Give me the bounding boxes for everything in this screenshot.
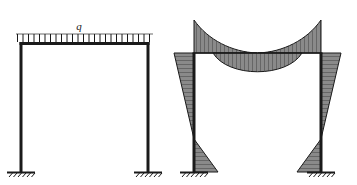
moment-beam-hogging-right	[258, 20, 321, 53]
support-fixed-right	[134, 173, 162, 178]
moment-beam-sagging-mid	[213, 53, 302, 72]
moment-support-fixed-left	[180, 173, 208, 178]
load-label-q: q	[76, 20, 82, 32]
moment-column-left-upper	[174, 53, 194, 139]
moment-support-fixed-right	[307, 173, 335, 178]
support-fixed-left	[7, 173, 35, 178]
figure-root: q	[0, 0, 357, 185]
moment-beam-hogging-left	[194, 20, 257, 53]
distributed-load-arrows	[18, 34, 150, 42]
moment-column-left-lower	[194, 139, 218, 172]
panel-moment-diagram	[174, 20, 341, 177]
engineering-figure: q	[0, 0, 357, 185]
panel-load-diagram: q	[7, 20, 162, 177]
moment-column-right-lower	[297, 139, 321, 172]
moment-column-right-upper	[321, 53, 341, 139]
